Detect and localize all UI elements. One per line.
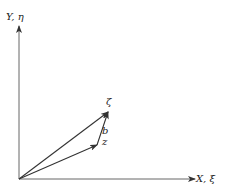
x-axis-label: X, ξ: [196, 174, 215, 184]
b-label: b: [102, 126, 108, 136]
zeta-label: ζ: [106, 97, 111, 107]
vector-diagram: [0, 0, 227, 194]
z-label: z: [102, 137, 107, 147]
y-axis-label: Y, η: [6, 12, 24, 22]
